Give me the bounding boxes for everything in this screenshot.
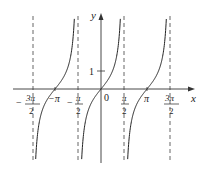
x-axis-label: x xyxy=(190,92,196,104)
svg-text:3π: 3π xyxy=(25,93,36,103)
y-tick-label-1: 1 xyxy=(89,66,94,77)
svg-text:3π: 3π xyxy=(164,93,175,103)
svg-text:−: − xyxy=(16,97,22,108)
asymptotes xyxy=(33,16,170,163)
svg-text:π: π xyxy=(76,93,81,103)
x-tick-label-neg-pi-2: − π 2 xyxy=(67,93,83,116)
origin-label: 0 xyxy=(104,92,109,103)
svg-text:π: π xyxy=(122,93,127,103)
svg-text:2: 2 xyxy=(122,106,127,116)
y-axis-label: y xyxy=(90,9,96,21)
x-tick-label-pi-2: π 2 xyxy=(121,93,129,116)
x-tick-label-3pi-2: 3π 2 xyxy=(164,93,179,116)
x-axis-arrow-icon xyxy=(188,87,195,92)
svg-text:2: 2 xyxy=(169,106,174,116)
tangent-graph: y x 0 1 − 3π 2 −π − π 2 π 2 π 3π 2 xyxy=(0,0,207,171)
svg-text:2: 2 xyxy=(76,106,81,116)
y-axis-arrow-icon xyxy=(99,13,104,20)
svg-text:2: 2 xyxy=(29,106,34,116)
x-tick-label-neg-3pi-2: − 3π 2 xyxy=(16,93,40,116)
svg-text:−: − xyxy=(67,97,73,108)
x-tick-label-pi: π xyxy=(144,93,150,104)
x-tick-label-neg-pi: −π xyxy=(48,93,61,104)
